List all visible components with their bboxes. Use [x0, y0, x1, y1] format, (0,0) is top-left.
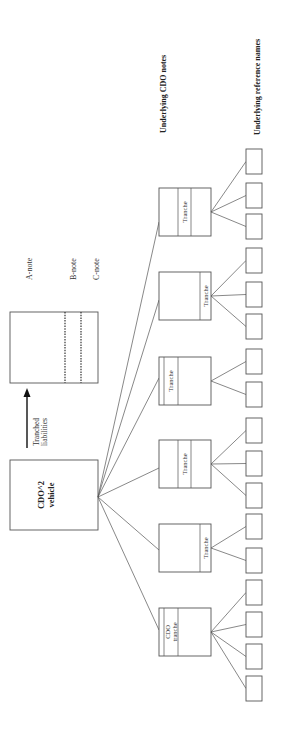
cdo-note-box: Tranche [159, 272, 211, 320]
vehicle-to-notes-connectors [98, 222, 159, 630]
tranche-label: Tranche [181, 453, 188, 474]
heading-underlying-cdo-notes: Underlying CDO notes [159, 55, 168, 133]
reference-name-box [246, 644, 262, 669]
tranche-label: CDO [164, 625, 171, 639]
cdo-note-box: CDOtranche [159, 608, 211, 656]
reference-name-box [246, 382, 262, 407]
vehicle-to-note-line [98, 468, 159, 497]
reference-name-box [246, 548, 262, 573]
vehicle-to-note-line [98, 497, 159, 630]
note-to-reference-line [211, 632, 246, 657]
arrow-label-line2: liabilities [40, 418, 49, 446]
cdo-note-box: Tranche [159, 357, 211, 405]
note-to-reference-line [211, 527, 246, 549]
cdo-note-box: Tranche [159, 440, 211, 488]
cdo-note-box: Tranche [159, 188, 211, 236]
reference-name-box [246, 149, 262, 174]
vehicle-to-note-line [98, 222, 159, 497]
cdo-notes-column: TrancheTrancheTrancheTrancheTrancheCDOtr… [159, 188, 211, 656]
reference-name-box [246, 248, 262, 273]
cdo-note-box: Tranche [159, 524, 211, 572]
liability-label-b-note: B-note [69, 258, 78, 280]
reference-names-column [211, 149, 262, 701]
reference-name-box [246, 214, 262, 239]
reference-name-box [246, 349, 262, 374]
vehicle-to-note-line [98, 300, 159, 497]
vehicle-to-note-line [98, 497, 159, 550]
reference-name-box [246, 282, 262, 307]
tranche-label: Tranche [202, 285, 209, 306]
reference-name-box [246, 676, 262, 701]
vehicle-label-line2: vehicle [46, 482, 56, 507]
reference-name-box [246, 418, 262, 443]
note-to-reference-line [211, 593, 246, 633]
note-to-reference-line [211, 261, 246, 297]
note-to-reference-line [211, 362, 246, 382]
note-to-reference-line [211, 296, 246, 327]
note-to-reference-line [211, 295, 246, 297]
reference-name-box [246, 514, 262, 539]
note-to-reference-line [211, 196, 246, 213]
reference-name-box [246, 483, 262, 508]
vehicle-to-note-line [98, 378, 159, 497]
tranche-label: Tranche [167, 370, 174, 391]
liability-label-a-note: A-note [25, 257, 34, 280]
reference-name-box [246, 183, 262, 208]
note-to-reference-line [211, 632, 246, 689]
vehicle-label-line1: CDO^2 [36, 481, 46, 509]
note-to-reference-line [211, 212, 246, 227]
tranche-label: Tranche [181, 201, 188, 222]
note-to-reference-line [211, 162, 246, 213]
note-to-reference-line [211, 464, 246, 465]
cdo-squared-diagram: Underlying CDO notes Underlying referenc… [0, 0, 282, 736]
reference-name-box [246, 451, 262, 476]
reference-name-box [246, 580, 262, 605]
tranche-label: Tranche [202, 537, 209, 558]
note-to-reference-line [211, 464, 246, 496]
liability-label-c-note: C-note [92, 258, 101, 280]
note-to-reference-line [211, 548, 246, 561]
note-to-reference-line [211, 431, 246, 465]
up-arrow-icon [24, 388, 31, 448]
reference-name-box [246, 314, 262, 339]
reference-name-box [246, 612, 262, 637]
heading-underlying-reference-names: Underlying reference names [253, 39, 262, 135]
tranche-label: tranche [171, 622, 178, 641]
note-to-reference-line [211, 381, 246, 395]
tranched-liabilities-box [10, 312, 98, 383]
